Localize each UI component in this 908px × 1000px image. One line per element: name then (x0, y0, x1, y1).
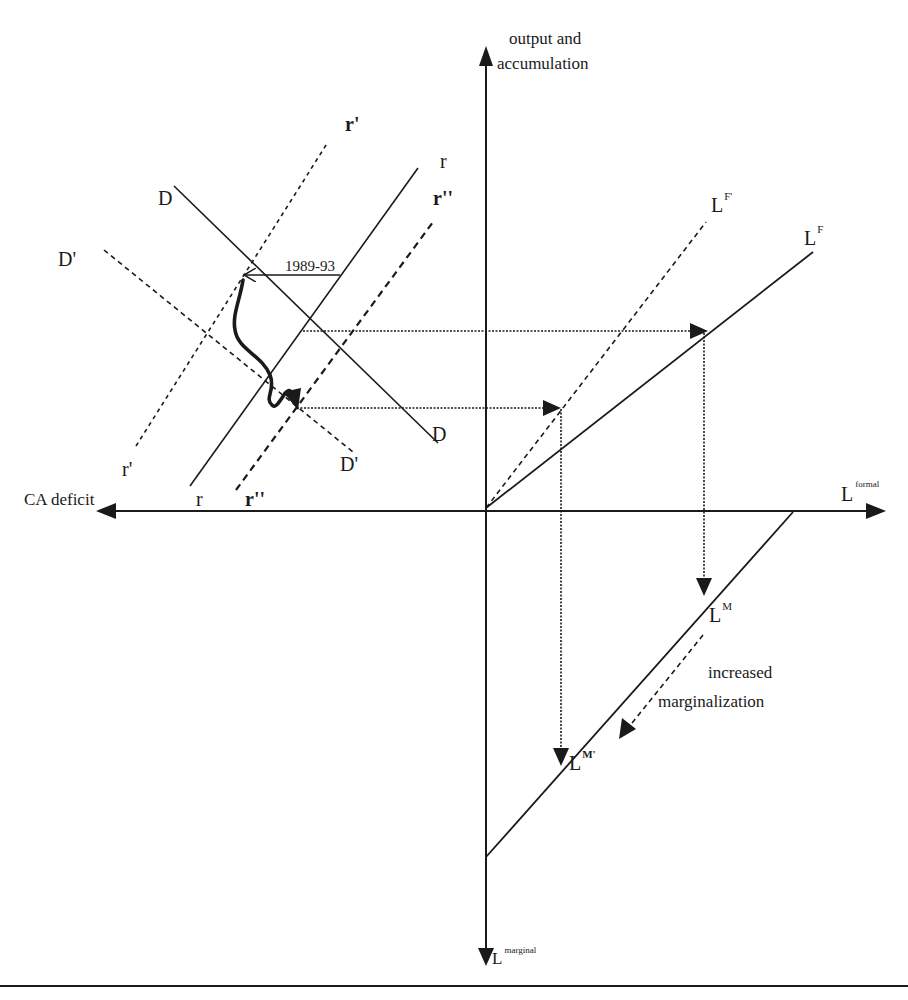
label-LF-prime: LF' (711, 195, 732, 215)
label-D-prime-top: D' (58, 249, 76, 269)
curve-D-prime (104, 250, 353, 452)
y-axis-down-label-sup: marginal (504, 945, 536, 955)
label-D-bottom: D (432, 424, 446, 444)
curve-r (190, 168, 418, 486)
label-LF: LF (804, 228, 823, 248)
label-LM-prime-base: L (569, 752, 581, 774)
curve-LF-prime (486, 222, 706, 508)
formal-labour-curves (486, 222, 813, 508)
x-axis-right-arrowhead (866, 503, 886, 519)
label-period: 1989-93 (285, 259, 335, 274)
x-axis-right-label: Lformal (841, 484, 879, 504)
interest-curves (136, 142, 433, 490)
axes (96, 46, 886, 966)
label-r-bottom: r (196, 489, 203, 509)
label-LM: LM (709, 605, 732, 625)
x-axis-left-arrowhead (96, 503, 116, 519)
demand-curves (104, 186, 438, 452)
label-LF-base: L (804, 227, 816, 249)
label-LF-prime-sup: F' (724, 190, 732, 202)
y-axis-label-line2: accumulation (497, 55, 589, 72)
marginalization-arrow (628, 635, 703, 728)
x-axis-right-label-sup: formal (855, 479, 879, 489)
label-LM-base: L (709, 604, 721, 626)
label-r-double-prime-bottom: r'' (245, 489, 265, 509)
curve-LM (486, 512, 793, 857)
label-r-double-prime-top: r'' (433, 188, 453, 208)
label-LM-prime: LM' (569, 753, 596, 773)
label-r-prime-bottom: r' (122, 459, 132, 479)
curve-LF (486, 252, 813, 508)
label-LM-prime-sup: M' (582, 748, 595, 760)
x-axis-left-label: CA deficit (24, 491, 94, 508)
label-D-top: D (158, 188, 172, 208)
label-marginalization: marginalization (658, 693, 764, 710)
label-r-prime-top: r' (345, 114, 359, 134)
y-axis-down-label: Lmarginal (492, 950, 536, 967)
label-r-top: r (440, 151, 447, 171)
y-axis-up-arrowhead (479, 46, 493, 66)
y-axis-down-label-base: L (492, 949, 502, 968)
marginal-labour-curve (486, 512, 793, 857)
projection-lines (297, 323, 712, 766)
label-increased: increased (708, 664, 772, 681)
label-LF-prime-base: L (711, 194, 723, 216)
label-LM-sup: M (722, 600, 732, 612)
diagram-canvas (0, 0, 908, 1000)
y-axis-label-line1: output and (509, 30, 581, 47)
bottom-rule (0, 985, 908, 987)
label-LF-sup: F (817, 223, 823, 235)
label-D-prime-bottom: D' (340, 454, 358, 474)
curve-D (174, 186, 438, 443)
x-axis-right-label-base: L (841, 483, 853, 505)
